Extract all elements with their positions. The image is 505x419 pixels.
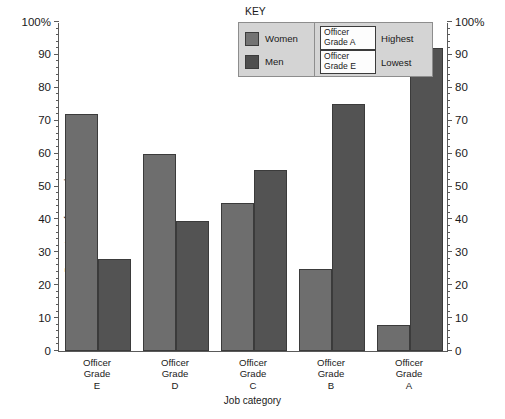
y-axis-minor-tick: [56, 258, 59, 259]
y-axis-minor-tick: [56, 264, 59, 265]
y-axis-minor-tick: [447, 297, 450, 298]
y-axis-tick-label-right: 50: [455, 181, 468, 193]
y-axis-minor-tick: [56, 271, 59, 272]
legend-rank-lowest-label: Lowest: [381, 57, 411, 68]
y-axis-minor-tick: [447, 133, 450, 134]
y-axis-minor-tick: [56, 146, 59, 147]
y-axis-minor-tick: [447, 232, 450, 233]
y-axis-minor-tick: [56, 133, 59, 134]
y-axis-minor-tick: [56, 324, 59, 325]
y-axis-tick-label-right: 70: [455, 115, 468, 127]
y-axis-minor-tick: [447, 311, 450, 312]
y-axis-minor-tick: [447, 192, 450, 193]
y-axis-minor-tick: [56, 172, 59, 173]
y-axis-tick-label-right: 10: [455, 313, 468, 325]
y-axis-minor-tick: [447, 337, 450, 338]
y-axis-tick: [54, 87, 59, 88]
y-axis-minor-tick: [447, 271, 450, 272]
y-axis-minor-tick: [447, 205, 450, 206]
y-axis-minor-tick: [56, 205, 59, 206]
legend-label-men: Men: [265, 56, 284, 67]
y-axis-tick: [54, 120, 59, 121]
legend-rank-column: Officer Grade A Highest Officer Grade E …: [315, 23, 432, 76]
y-axis-minor-tick: [56, 304, 59, 305]
y-axis-minor-tick: [56, 126, 59, 127]
y-axis-minor-tick: [56, 199, 59, 200]
y-axis-tick: [447, 120, 452, 121]
y-axis-tick: [54, 54, 59, 55]
y-axis-tick: [54, 21, 59, 22]
y-axis-minor-tick: [56, 225, 59, 226]
y-axis-tick: [447, 218, 452, 219]
y-axis-tick: [447, 317, 452, 318]
y-axis-minor-tick: [56, 297, 59, 298]
y-axis-minor-tick: [447, 107, 450, 108]
y-axis-tick-label-left: 40: [38, 214, 51, 226]
y-axis-minor-tick: [56, 179, 59, 180]
y-axis-minor-tick: [447, 28, 450, 29]
x-axis-category-label: Officer Grade D: [135, 357, 215, 391]
y-axis-tick: [54, 350, 59, 351]
y-axis-minor-tick: [447, 238, 450, 239]
legend-label-women: Women: [265, 33, 298, 44]
x-axis-title: Job category: [0, 395, 505, 406]
y-axis-minor-tick: [56, 311, 59, 312]
y-axis-tick-label-right: 30: [455, 247, 468, 259]
y-axis-tick-label-right: 100%: [455, 17, 484, 29]
y-axis-tick-label-right: 0: [455, 346, 461, 358]
y-axis-minor-tick: [447, 159, 450, 160]
y-axis-minor-tick: [56, 278, 59, 279]
legend-rank-highest-grade: Officer Grade A: [320, 26, 376, 49]
bar-men: [176, 221, 209, 351]
y-axis-tick-label-left: 90: [38, 49, 51, 61]
y-axis-tick-label-right: 20: [455, 280, 468, 292]
bar-men: [332, 104, 365, 351]
y-axis-minor-tick: [56, 93, 59, 94]
y-axis-tick: [54, 251, 59, 252]
y-axis-tick: [447, 251, 452, 252]
y-axis-minor-tick: [447, 126, 450, 127]
bar-women: [143, 154, 176, 351]
y-axis-tick: [447, 87, 452, 88]
y-axis-minor-tick: [56, 74, 59, 75]
y-axis-tick-label-left: 60: [38, 148, 51, 160]
y-axis-minor-tick: [447, 212, 450, 213]
y-axis-minor-tick: [56, 47, 59, 48]
y-axis-minor-tick: [56, 34, 59, 35]
x-axis-category-label: Officer Grade E: [57, 357, 137, 391]
y-axis-tick: [54, 317, 59, 318]
y-axis-tick: [447, 21, 452, 22]
y-axis-tick-label-left: 30: [38, 247, 51, 259]
legend-rank-lowest: Officer Grade E Lowest: [320, 50, 432, 74]
y-axis-minor-tick: [56, 330, 59, 331]
bar-men: [98, 259, 131, 351]
y-axis-minor-tick: [56, 166, 59, 167]
x-axis-category-label: Officer Grade A: [369, 357, 449, 391]
y-axis-tick: [447, 284, 452, 285]
y-axis-minor-tick: [56, 80, 59, 81]
y-axis-minor-tick: [56, 139, 59, 140]
x-axis-category-label: Officer Grade C: [213, 357, 293, 391]
y-axis-tick-label-right: 80: [455, 82, 468, 94]
legend-item-men: Men: [245, 50, 314, 73]
y-axis-minor-tick: [447, 172, 450, 173]
y-axis-tick: [54, 218, 59, 219]
y-axis-minor-tick: [56, 238, 59, 239]
y-axis-minor-tick: [56, 28, 59, 29]
y-axis-tick-label-left: 10: [38, 313, 51, 325]
legend-title: KEY: [245, 6, 266, 17]
y-axis-tick-label-left: 0: [45, 346, 51, 358]
bar-men: [254, 170, 287, 351]
y-axis-tick: [447, 186, 452, 187]
legend-rank-highest-label: Highest: [381, 33, 414, 44]
y-axis-minor-tick: [56, 67, 59, 68]
y-axis-minor-tick: [447, 80, 450, 81]
y-axis-minor-tick: [447, 245, 450, 246]
y-axis-minor-tick: [447, 291, 450, 292]
y-axis-minor-tick: [56, 291, 59, 292]
y-axis-minor-tick: [56, 192, 59, 193]
y-axis-minor-tick: [447, 41, 450, 42]
y-axis-minor-tick: [447, 60, 450, 61]
legend-rank-highest: Officer Grade A Highest: [320, 26, 432, 50]
y-axis-minor-tick: [447, 324, 450, 325]
